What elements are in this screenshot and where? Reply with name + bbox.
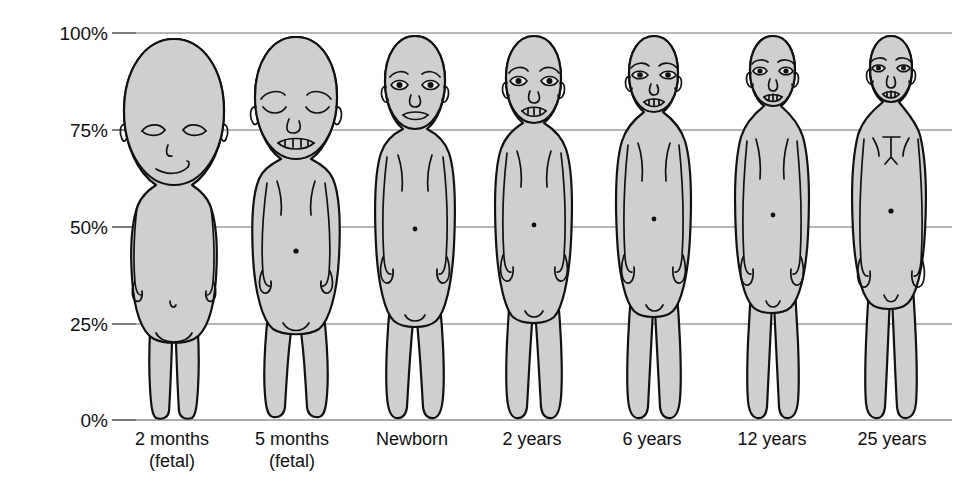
ytick-label-0: 0% (0, 411, 108, 430)
xlabel-line2: (fetal) (112, 450, 232, 472)
figure-12-years (713, 33, 832, 420)
xlabel-newborn: Newborn (352, 428, 472, 486)
xlabel-line1: 5 months (255, 429, 329, 449)
xlabel-line1: 25 years (857, 429, 926, 449)
xlabel-5-months-fetal: 5 months (fetal) (232, 428, 352, 486)
xlabel-line1: 2 years (502, 429, 561, 449)
xlabel-line1: 2 months (135, 429, 209, 449)
silhouette-12-years (735, 36, 809, 418)
xlabel-line1: Newborn (376, 429, 448, 449)
silhouette-6-years (616, 36, 691, 418)
ytick-label-100: 100% (0, 24, 108, 43)
figure-5-months-fetal (236, 33, 355, 420)
silhouette-25-years (852, 36, 926, 418)
figure-6-years (594, 33, 713, 420)
silhouette-5-months-fetal (250, 37, 341, 417)
xlabel-line2: (fetal) (232, 450, 352, 472)
growth-proportions-chart: 100% 75% 50% 25% 0% (0, 0, 965, 491)
ytick-label-75: 75% (0, 121, 108, 140)
figure-track (112, 33, 952, 420)
figure-2-months-fetal (112, 33, 236, 420)
silhouette-2-months-fetal (120, 39, 227, 419)
ytick-label-25: 25% (0, 315, 108, 334)
figure-25-years (833, 33, 952, 420)
xlabel-12-years: 12 years (712, 428, 832, 486)
silhouette-newborn (375, 36, 455, 418)
xlabel-2-years: 2 years (472, 428, 592, 486)
ytick-label-50: 50% (0, 218, 108, 237)
xlabel-6-years: 6 years (592, 428, 712, 486)
figure-2-years (475, 33, 594, 420)
xlabel-line1: 6 years (622, 429, 681, 449)
xlabel-line1: 12 years (737, 429, 806, 449)
silhouette-2-years (495, 36, 572, 418)
figure-newborn (355, 33, 474, 420)
x-axis-labels: 2 months (fetal) 5 months (fetal) Newbor… (112, 428, 952, 486)
xlabel-2-months-fetal: 2 months (fetal) (112, 428, 232, 486)
xlabel-25-years: 25 years (832, 428, 952, 486)
